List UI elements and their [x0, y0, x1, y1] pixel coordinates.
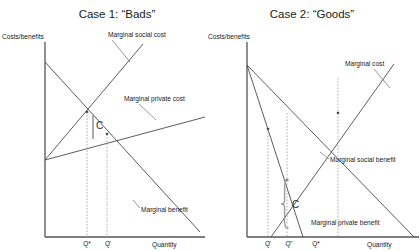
- curve-label-marginal-social-benefit-case2: Marginal social benefit: [330, 156, 396, 164]
- tick-label-qprime-case1: Q': [105, 240, 111, 248]
- curve-label-marginal-benefit-case1: Marginal benefit: [141, 206, 188, 214]
- annotation-c-case1: C: [96, 120, 103, 131]
- curve-marginal-cost-case2: [271, 64, 394, 237]
- curve-marginal-social-benefit-case2: [247, 65, 414, 237]
- leader-marginal-social-benefit-case2: [320, 152, 329, 159]
- curve-label-marginal-private-benefit-case2: Marginal private benefit: [311, 219, 380, 227]
- y-axis-label-case1: Costs/benefits: [2, 33, 44, 40]
- leader-marginal-benefit-case1: [133, 200, 140, 208]
- leader-marginal-social-cost-case1: [112, 40, 130, 62]
- tick-label-qstar-case1: Q*: [83, 240, 91, 248]
- curve-marginal-private-cost-case1: [45, 117, 205, 160]
- curve-label-marginal-social-cost-case1: Marginal social cost: [108, 31, 166, 39]
- curve-marginal-social-cost-case1: [45, 44, 143, 160]
- tick-label-qprime-case2: Q': [265, 240, 271, 248]
- curve-marginal-private-benefit-case2: [247, 65, 303, 237]
- annotation-c-case2: C: [292, 199, 299, 210]
- leader-marginal-private-cost-case1: [139, 104, 156, 120]
- panel-case2: Case 2: “Goods” Costs/benefits Quantity …: [208, 8, 419, 249]
- panel-title-case1: Case 1: “Bads”: [79, 8, 156, 20]
- panel-case1: Case 1: “Bads” Costs/benefits Quantity M…: [2, 8, 205, 249]
- externalities-figure: Case 1: “Bads” Costs/benefits Quantity M…: [0, 0, 420, 251]
- tick-label-qdprime-case2: Q": [285, 240, 292, 248]
- leader-marginal-cost-case2: [374, 69, 390, 88]
- panel-title-case2: Case 2: “Goods”: [270, 8, 355, 20]
- x-axis-label-case1: Quantity: [152, 241, 177, 249]
- curve-label-marginal-private-cost-case1: Marginal private cost: [124, 95, 185, 103]
- x-axis-label-case2: Quantity: [367, 241, 392, 249]
- tick-label-qstar-case2: Q*: [312, 240, 320, 248]
- y-axis-label-case2: Costs/benefits: [208, 33, 250, 40]
- curve-label-marginal-cost-case2: Marginal cost: [345, 60, 384, 68]
- figure-canvas: Case 1: “Bads” Costs/benefits Quantity M…: [0, 0, 420, 251]
